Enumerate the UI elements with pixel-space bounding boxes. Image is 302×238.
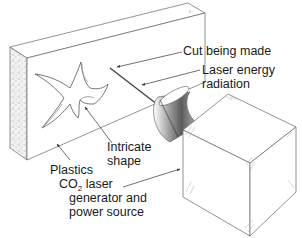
label-laser-line2: radiation: [202, 77, 275, 91]
label-cut-being-made: Cut being made: [183, 44, 271, 58]
label-plastics: Plastics: [50, 163, 93, 177]
co2-prefix: CO: [59, 177, 78, 191]
label-plastics-text: Plastics: [50, 163, 93, 177]
label-intricate-line1: Intricate: [107, 140, 151, 154]
label-laser-line1: Laser energy: [202, 63, 275, 77]
plastic-side-face: [10, 47, 27, 160]
label-co2-laser-generator: CO2 laser generator and power source: [59, 177, 147, 219]
laser-cutting-diagram: [0, 0, 302, 238]
label-intricate-line2: shape: [107, 154, 151, 168]
label-laser-energy-radiation: Laser energy radiation: [202, 63, 275, 91]
label-co2-line3: power source: [59, 205, 147, 219]
co2-rest: laser: [82, 177, 113, 191]
plastics-leader: [57, 144, 70, 160]
laser-generator-cube: [183, 94, 296, 236]
label-co2-line2: generator and: [59, 191, 147, 205]
label-intricate-shape: Intricate shape: [107, 140, 151, 168]
label-co2-line1: CO2 laser: [59, 177, 147, 191]
label-cut-text: Cut being made: [183, 44, 271, 58]
